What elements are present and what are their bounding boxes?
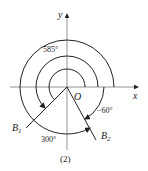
ray-b1	[26, 87, 67, 128]
origin-label: O	[74, 91, 81, 102]
caption: (2)	[60, 154, 71, 164]
angle-label-neg60: −60°	[97, 106, 113, 115]
angle-label-585: 585°	[43, 45, 58, 54]
x-axis-label: x	[132, 90, 138, 101]
b1-label: B1	[12, 122, 22, 135]
b2-label: B2	[101, 130, 111, 143]
angle-label-300: 300°	[41, 135, 56, 144]
y-axis-label: y	[57, 9, 63, 20]
angle-diagram: y x O 585° 300° −60° B1 B2 (2)	[0, 0, 148, 171]
